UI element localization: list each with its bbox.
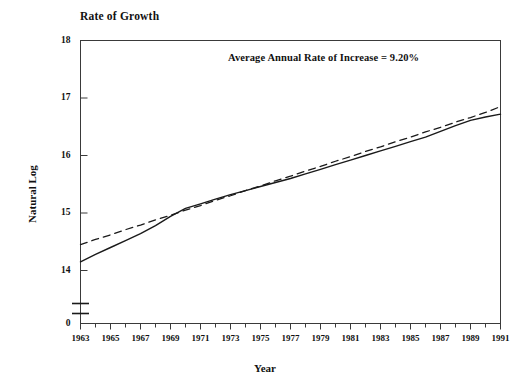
x-tick-label: 1983	[364, 333, 398, 343]
x-tick-label: 1977	[274, 333, 308, 343]
x-axis-ticks	[81, 324, 501, 330]
x-tick-label: 1985	[394, 333, 428, 343]
x-tick-label: 1967	[124, 333, 158, 343]
x-tick-label: 1963	[64, 333, 98, 343]
trend-line	[81, 107, 501, 245]
x-tick-label: 1969	[154, 333, 188, 343]
chart-figure: Rate of Growth Average Annual Rate of In…	[0, 0, 530, 391]
data-line	[81, 114, 501, 262]
y-tick-label: 16	[49, 150, 71, 160]
y-tick-label: 15	[49, 207, 71, 217]
y-tick-label: 14	[49, 265, 71, 275]
y-tick-label: 17	[49, 92, 71, 102]
y-tick-label: 0	[49, 318, 71, 328]
x-tick-label: 1973	[214, 333, 248, 343]
x-tick-label: 1979	[304, 333, 338, 343]
x-tick-label: 1981	[334, 333, 368, 343]
y-axis-ticks	[81, 41, 88, 324]
x-tick-label: 1987	[424, 333, 458, 343]
plot-border	[81, 41, 501, 324]
x-tick-label: 1965	[94, 333, 128, 343]
x-tick-label: 1989	[454, 333, 488, 343]
y-tick-label: 18	[49, 35, 71, 45]
x-tick-label: 1991	[484, 333, 518, 343]
x-tick-label: 1975	[244, 333, 278, 343]
x-tick-label: 1971	[184, 333, 218, 343]
chart-series-lines	[81, 107, 501, 262]
